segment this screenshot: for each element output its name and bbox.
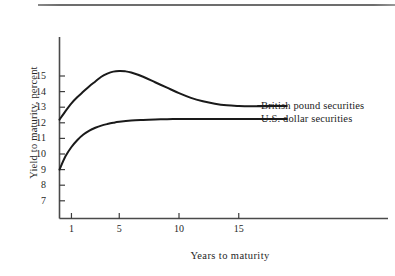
axes [60, 37, 389, 219]
y-axis-tick-marks [60, 76, 66, 201]
plot-area [0, 0, 395, 276]
series-line-british-pound [60, 71, 287, 120]
data-series-layer [60, 71, 287, 170]
series-line-us-dollar [60, 119, 287, 170]
x-axis-tick-marks [71, 213, 238, 219]
chart-figure: Yield to maturity, percent Years to matu… [0, 0, 395, 276]
